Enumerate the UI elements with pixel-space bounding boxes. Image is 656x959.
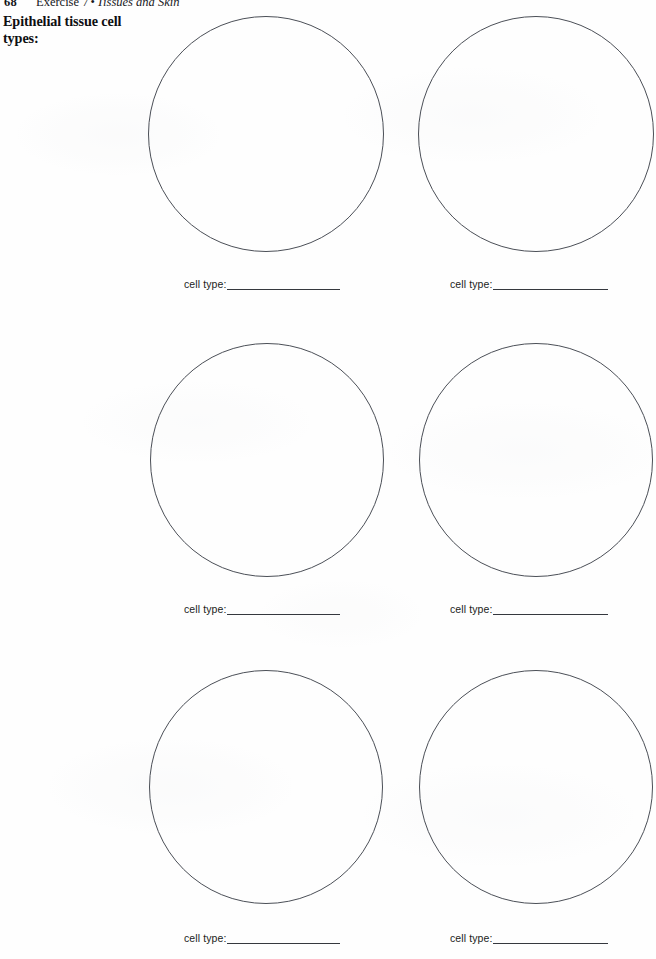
drawing-cell-5: cell type: <box>149 670 383 955</box>
cell-type-text: cell type: <box>184 278 226 290</box>
cell-type-label-5: cell type: <box>184 932 340 944</box>
cell-type-label-2: cell type: <box>450 278 608 290</box>
cell-type-label-1: cell type: <box>184 278 340 290</box>
cell-type-input-1[interactable] <box>227 280 340 290</box>
cell-type-input-6[interactable] <box>493 934 608 944</box>
cell-type-label-6: cell type: <box>450 932 608 944</box>
drawing-cell-4: cell type: <box>419 343 653 623</box>
drawing-circle[interactable] <box>419 343 653 577</box>
drawing-circle[interactable] <box>418 16 654 252</box>
cell-type-input-4[interactable] <box>493 605 608 615</box>
worksheet-page: 68 Exercise 7•Tissues and Skin Epithelia… <box>0 0 656 959</box>
drawing-cell-2: cell type: <box>418 16 654 296</box>
cell-type-text: cell type: <box>450 932 492 944</box>
cell-type-input-2[interactable] <box>493 280 608 290</box>
drawing-circle-grid: cell type: cell type: cell type: cell <box>0 0 656 959</box>
cell-type-text: cell type: <box>450 603 492 615</box>
drawing-cell-6: cell type: <box>419 670 653 955</box>
cell-type-label-4: cell type: <box>450 603 608 615</box>
cell-type-input-3[interactable] <box>227 605 340 615</box>
cell-type-text: cell type: <box>450 278 492 290</box>
drawing-circle[interactable] <box>149 670 383 904</box>
drawing-circle[interactable] <box>148 16 384 252</box>
drawing-cell-3: cell type: <box>150 343 384 623</box>
drawing-circle[interactable] <box>150 343 384 577</box>
drawing-cell-1: cell type: <box>148 16 384 296</box>
cell-type-text: cell type: <box>184 603 226 615</box>
drawing-circle[interactable] <box>419 670 653 904</box>
cell-type-text: cell type: <box>184 932 226 944</box>
cell-type-label-3: cell type: <box>184 603 340 615</box>
cell-type-input-5[interactable] <box>227 934 340 944</box>
